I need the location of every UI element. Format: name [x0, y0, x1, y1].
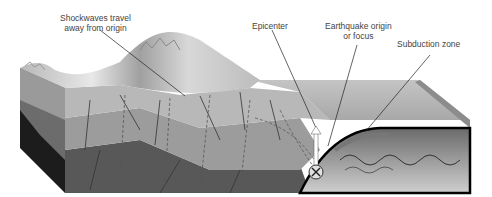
mountain-terrain: [20, 32, 260, 93]
focus-marker-icon: [309, 165, 323, 179]
label-epicenter: Epicenter: [252, 21, 288, 31]
label-shockwaves: Shockwaves travel away from origin: [60, 13, 131, 33]
label-origin-line2: or focus: [325, 31, 392, 41]
label-shockwaves-line2: away from origin: [60, 23, 131, 33]
earthquake-diagram: Shockwaves travel away from origin Epice…: [0, 0, 492, 197]
label-origin-line1: Earthquake origin: [325, 21, 392, 31]
subducting-plate: [300, 128, 470, 193]
label-earthquake-origin: Earthquake origin or focus: [325, 21, 392, 41]
label-subduction-zone: Subduction zone: [397, 39, 460, 49]
label-shockwaves-line1: Shockwaves travel: [60, 13, 131, 23]
